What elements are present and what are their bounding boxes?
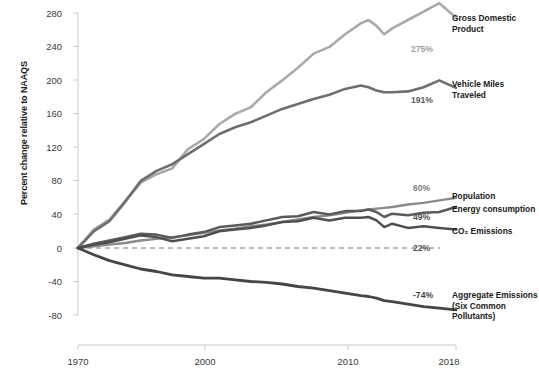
series-label-co2: CO₂ Emissions	[452, 226, 513, 237]
series-line-co2-emissions	[78, 217, 456, 248]
value-label-gdp: 275%	[411, 44, 433, 54]
series-label-vmt: Vehicle Miles Traveled	[452, 79, 539, 100]
series-label-aggregate-emissions: Aggregate Emissions (Six Common Pollutan…	[452, 290, 539, 322]
x-axis-ticks	[78, 345, 456, 350]
series-line-vehicle-miles-traveled	[78, 80, 456, 248]
plot-area	[0, 0, 539, 379]
value-label-energy: 49%	[413, 212, 430, 222]
series-line-population	[78, 198, 456, 248]
chart-container: Percent change relative to NAAQS 280 240…	[0, 0, 539, 379]
series-label-gdp: Gross Domestic Product	[452, 13, 539, 34]
series-label-energy: Energy consumption	[452, 204, 535, 215]
value-label-population: 60%	[413, 183, 430, 193]
value-label-co2: 22%	[413, 243, 430, 253]
value-label-vmt: 191%	[411, 95, 433, 105]
y-axis-ticks	[73, 13, 78, 315]
value-label-aggregate-emissions: -74%	[413, 290, 433, 300]
series-line-gross-domestic-product	[78, 3, 456, 248]
series-label-population: Population	[452, 191, 495, 202]
series-line-aggregate-emissions	[78, 248, 456, 310]
